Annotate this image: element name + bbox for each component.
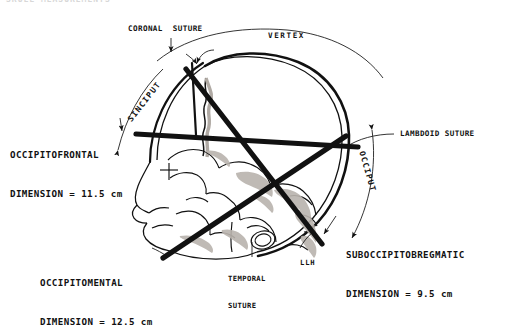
occipitofrontal-dimension-label: OCCIPITOFRONTAL DIMENSION = 11.5 cm [10, 122, 123, 226]
dimension-lines [136, 63, 358, 258]
coronal-suture-label: CORONAL SUTURE [128, 24, 203, 34]
lambdoid-suture-label: LAMBDOID SUTURE [400, 129, 475, 139]
suboccipitobregmatic-dimension-label: SUBOCCIPITOBREGMATIC DIMENSION = 9.5 cm [346, 222, 465, 326]
occipitomental-dimension-label: OCCIPITOMENTAL DIMENSION = 12.5 cm [40, 250, 153, 329]
temporal-suture-label: TEMPORAL SUTURE [228, 256, 266, 328]
vertex-label: VERTEX [268, 31, 305, 41]
suboccipito-leader [324, 216, 336, 234]
llh-label: LLH [300, 258, 315, 267]
